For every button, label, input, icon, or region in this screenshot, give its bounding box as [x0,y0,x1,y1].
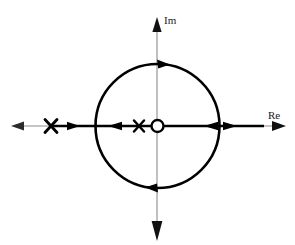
root-locus-canvas [0,0,295,245]
root-locus-figure: Im Re [0,0,295,245]
zero-marker-origin [152,120,164,132]
locus-circle-top-arrowhead [157,60,170,69]
locus-arrow-center-left [204,122,218,130]
imaginary-axis-label: Im [164,15,176,26]
locus-arrow-left-inner-left [108,122,122,130]
zero-markers-group [152,120,164,132]
real-axis-left-arrowhead [11,122,24,131]
real-axis-right-arrowhead [272,121,286,131]
locus-arrow-right-outer-right [223,122,237,130]
imaginary-axis-down-arrowhead [152,221,163,241]
imaginary-axis-up-arrowhead [152,17,161,32]
locus-arrow-left-outer-right [67,122,80,130]
real-axis-label: Re [268,110,280,121]
locus-circle-bottom-arrowhead [145,184,158,193]
